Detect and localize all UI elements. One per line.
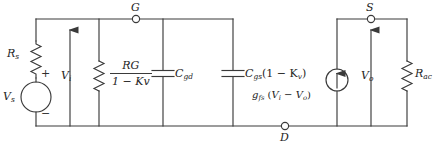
- resistor-rs-symbol: [31, 41, 41, 78]
- label-cgd: Cgd: [175, 68, 193, 81]
- label-cgs-suffix: (1 − Kv): [262, 67, 306, 80]
- label-vi: Vi: [61, 70, 71, 83]
- label-rac: Rac: [415, 68, 432, 81]
- label-rs: Rs: [7, 48, 19, 61]
- node-label-d: D: [280, 132, 289, 143]
- fraction-bar: [110, 73, 152, 74]
- circuit-diagram-root: G S D Rs Vs + − Vi RG 1 − Kv Cgd Cgs(1 −…: [0, 0, 443, 153]
- label-vs-sub: s: [11, 95, 15, 104]
- resistor-rg-symbol: [94, 61, 104, 91]
- label-vi-sub: i: [69, 74, 71, 83]
- label-cgs: Cgs(1 − Kv): [245, 68, 306, 81]
- label-cgd-sub: gd: [183, 72, 193, 81]
- label-rs-sub: s: [15, 52, 19, 61]
- label-rg-fraction: RG 1 − Kv: [110, 60, 152, 87]
- label-gfs-expr: (Vi − Vo): [264, 89, 311, 100]
- polarity-minus-vs: −: [41, 108, 50, 119]
- label-vo-base: V: [361, 69, 369, 82]
- label-cgs-sub: gs: [253, 72, 262, 81]
- label-vs-base: V: [3, 90, 11, 103]
- node-terminal-s[interactable]: [367, 15, 374, 22]
- node-label-s: S: [366, 2, 374, 13]
- label-vo: Vo: [361, 70, 373, 83]
- label-dependent-source-expression: gfs (Vi − Vo): [252, 90, 311, 102]
- label-vs: Vs: [3, 91, 15, 104]
- label-vi-base: V: [61, 69, 69, 82]
- node-label-g: G: [131, 2, 140, 13]
- node-terminal-d[interactable]: [281, 122, 288, 129]
- label-rg-denominator: 1 − Kv: [110, 75, 152, 88]
- polarity-plus-vs: +: [41, 68, 50, 79]
- label-rg-numerator: RG: [110, 60, 152, 73]
- node-terminal-g[interactable]: [132, 15, 139, 22]
- resistor-rac-symbol: [402, 61, 412, 91]
- label-vo-sub: o: [369, 74, 374, 83]
- label-rac-sub: ac: [423, 72, 432, 81]
